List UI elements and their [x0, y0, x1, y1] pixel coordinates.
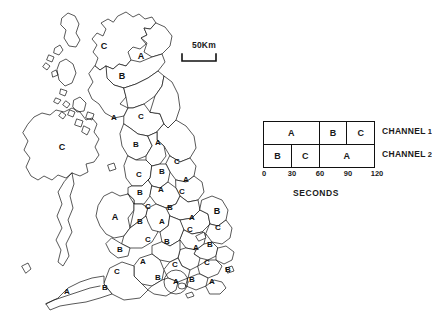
ireland-east-coast [56, 173, 74, 266]
region-label: B [225, 265, 231, 274]
channel-1-label: CHANNEL1 [375, 126, 432, 136]
channel-2-label: CHANNEL2 [375, 149, 432, 159]
table-row-channel-2: B C A [264, 145, 375, 168]
region-label: C [59, 142, 66, 152]
region-label: B [214, 206, 221, 216]
region-label: C [187, 225, 193, 234]
region-label: B [167, 203, 173, 212]
region-label: A [173, 277, 179, 286]
slot-ch1-b: B [319, 122, 347, 145]
region-label: B [117, 245, 123, 254]
region-label: A [155, 138, 161, 147]
axis-tick: 120 [371, 169, 384, 178]
slot-ch2-c: C [291, 145, 319, 168]
axis-tick: 0 [262, 169, 266, 178]
channel-table: A B C B C A [263, 121, 375, 168]
region-label: A [183, 175, 189, 184]
region-label: B [189, 275, 195, 284]
time-axis: 0 30 60 90 120 [263, 169, 375, 182]
region-label: C [145, 202, 151, 211]
region-label: A [193, 243, 199, 252]
slot-ch2-b: B [264, 145, 292, 168]
region-label: C [138, 112, 144, 121]
axis-tick: 30 [288, 169, 296, 178]
region-label: A [64, 287, 70, 296]
region-label: C [136, 170, 142, 179]
region-label: A [140, 257, 146, 266]
slot-ch1-c: C [347, 122, 375, 145]
isle-of-wight [186, 292, 194, 298]
region-label: B [119, 71, 126, 81]
region-label: C [172, 260, 178, 269]
slot-ch2-a: A [319, 145, 375, 168]
irish-islet [22, 263, 31, 273]
region-label: C [145, 235, 151, 244]
region-label: C [179, 187, 185, 196]
region-label: C [204, 258, 210, 267]
region-label: B [137, 188, 143, 197]
region-dover [216, 246, 234, 264]
region-label: B [207, 240, 213, 249]
region-label: B [137, 217, 143, 226]
region-label: A [111, 113, 117, 122]
scale-bar-icon [176, 52, 222, 64]
region-label: B [102, 283, 108, 292]
region-label: B [164, 237, 170, 246]
region-label: B [155, 273, 161, 282]
region-label: A [209, 277, 215, 286]
slot-ch1-a: A [264, 122, 320, 145]
channel-legend: A B C B C A CHANNEL1 CHANNEL2 [263, 121, 375, 198]
region-label: C [174, 157, 180, 166]
region-label: B [159, 167, 165, 176]
region-label: A [189, 213, 195, 222]
axis-title-seconds: SECONDS [263, 188, 375, 198]
region-cornwall [46, 276, 112, 310]
axis-tick: 60 [316, 169, 324, 178]
figure-root: C A B C A C B A C C B A B A C C B B A A [0, 0, 432, 319]
region-label: A [112, 212, 119, 222]
channel-chart: A B C B C A CHANNEL1 CHANNEL2 [263, 121, 375, 198]
region-label: C [114, 267, 120, 276]
axis-tick: 90 [344, 169, 352, 178]
region-label: C [215, 223, 221, 232]
london-inner-marker [178, 283, 186, 289]
region-scotland-northeast [141, 23, 172, 57]
region-label: B [133, 140, 139, 149]
table-row-channel-1: A B C [264, 122, 375, 145]
region-label: C [101, 41, 108, 51]
scale-bar: 50Km [176, 40, 232, 70]
scale-bar-label: 50Km [176, 40, 232, 51]
region-label: A [158, 185, 164, 194]
region-label: A [138, 51, 145, 61]
region-label: A [159, 217, 165, 226]
